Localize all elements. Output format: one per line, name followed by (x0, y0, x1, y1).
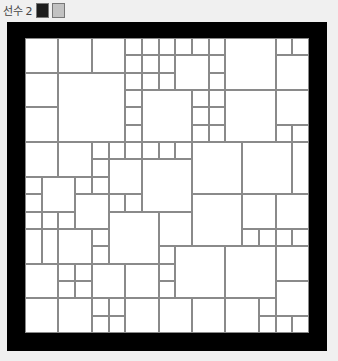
board-cell[interactable] (58, 142, 91, 177)
board-cell[interactable] (242, 142, 292, 194)
board-cell[interactable] (259, 229, 276, 246)
board-cell[interactable] (159, 55, 176, 72)
board-cell[interactable] (209, 38, 226, 55)
board-cell[interactable] (276, 229, 293, 246)
board-cell[interactable] (125, 298, 158, 333)
board-cell[interactable] (25, 142, 58, 177)
board-cell[interactable] (175, 55, 208, 90)
board-cell[interactable] (92, 264, 125, 299)
board-cell[interactable] (125, 73, 142, 90)
board-cell[interactable] (25, 264, 58, 299)
board-cell[interactable] (92, 229, 109, 246)
board-cell[interactable] (276, 246, 309, 281)
board-cell[interactable] (125, 38, 142, 55)
board-cell[interactable] (25, 298, 58, 333)
board-cell[interactable] (192, 38, 209, 55)
board-cell[interactable] (92, 159, 109, 176)
board-cell[interactable] (276, 38, 293, 55)
board-cell[interactable] (142, 73, 159, 90)
board-cell[interactable] (58, 212, 75, 229)
board-cell[interactable] (225, 246, 275, 298)
board-cell[interactable] (25, 107, 58, 142)
board-cell[interactable] (292, 125, 309, 142)
board-cell[interactable] (276, 194, 309, 229)
board-cell[interactable] (192, 125, 209, 142)
board-cell[interactable] (192, 194, 242, 246)
board-cell[interactable] (242, 194, 275, 229)
board-cell[interactable] (276, 281, 309, 316)
board-cell[interactable] (109, 316, 126, 333)
board-cell[interactable] (209, 73, 226, 90)
board-cell[interactable] (225, 38, 275, 90)
board-cell[interactable] (92, 316, 109, 333)
board-cell[interactable] (159, 38, 176, 55)
board-cell[interactable] (58, 38, 91, 73)
board-cell[interactable] (75, 281, 92, 298)
board-cell[interactable] (192, 107, 209, 124)
board-cell[interactable] (259, 316, 276, 333)
board-cell[interactable] (159, 246, 176, 263)
board-cell[interactable] (25, 229, 42, 264)
board-cell[interactable] (25, 212, 42, 229)
board-cell[interactable] (125, 107, 142, 124)
board-cell[interactable] (242, 229, 259, 246)
board-cell[interactable] (142, 90, 192, 142)
board-cell[interactable] (175, 38, 192, 55)
board-cell[interactable] (125, 194, 142, 211)
player-color-light-swatch[interactable] (52, 3, 65, 18)
board-cell[interactable] (92, 246, 109, 263)
board-cell[interactable] (225, 298, 258, 333)
board-cell[interactable] (92, 142, 109, 159)
board-cell[interactable] (292, 229, 309, 246)
board-cell[interactable] (192, 298, 225, 333)
board-cell[interactable] (175, 142, 192, 159)
board-cell[interactable] (175, 246, 225, 298)
board-cell[interactable] (42, 177, 75, 212)
board-cell[interactable] (25, 177, 42, 194)
board-cell[interactable] (25, 73, 58, 108)
board-cell[interactable] (159, 142, 176, 159)
board-cell[interactable] (192, 90, 209, 107)
board-cell[interactable] (92, 298, 109, 315)
board-cell[interactable] (209, 90, 226, 107)
board-cell[interactable] (159, 264, 176, 281)
board-cell[interactable] (259, 298, 276, 315)
board-cell[interactable] (25, 194, 42, 211)
board-cell[interactable] (125, 90, 142, 107)
board-cell[interactable] (276, 90, 309, 125)
board-cell[interactable] (276, 55, 309, 90)
board-cell[interactable] (109, 159, 142, 194)
board-cell[interactable] (92, 177, 109, 194)
board-cell[interactable] (276, 316, 293, 333)
board-cell[interactable] (125, 125, 142, 142)
board-cell[interactable] (92, 38, 125, 73)
board-cell[interactable] (42, 212, 59, 229)
board-cell[interactable] (225, 90, 275, 142)
board-cell[interactable] (75, 177, 92, 194)
board-cell[interactable] (109, 212, 159, 264)
board-cell[interactable] (209, 107, 226, 124)
board-cell[interactable] (192, 142, 242, 194)
board-cell[interactable] (125, 264, 158, 299)
board-cell[interactable] (142, 142, 159, 159)
board-cell[interactable] (209, 125, 226, 142)
board-cell[interactable] (209, 55, 226, 72)
board-cell[interactable] (142, 159, 192, 211)
board-cell[interactable] (142, 55, 159, 72)
board-cell[interactable] (125, 142, 142, 159)
board-cell[interactable] (292, 316, 309, 333)
board-cell[interactable] (58, 73, 125, 142)
board-cell[interactable] (125, 55, 142, 72)
board-cell[interactable] (292, 38, 309, 55)
board-cell[interactable] (159, 298, 192, 333)
board-cell[interactable] (109, 298, 126, 315)
board-cell[interactable] (292, 142, 309, 194)
board-cell[interactable] (159, 73, 176, 90)
board-cell[interactable] (58, 298, 91, 333)
board-cell[interactable] (58, 281, 75, 298)
board-cell[interactable] (159, 212, 192, 247)
player-color-dark-swatch[interactable] (36, 3, 49, 18)
board-cell[interactable] (142, 38, 159, 55)
board-cell[interactable] (75, 194, 108, 229)
board-cell[interactable] (75, 264, 92, 281)
